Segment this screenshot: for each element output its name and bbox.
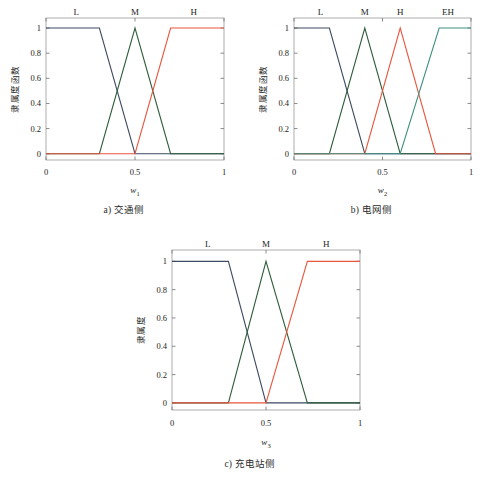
x-axis-title-subscript: 3 [267,442,270,449]
x-tick-label: 1 [222,167,226,177]
y-tick-label: 0 [163,398,167,408]
x-tick-label: 0 [170,418,174,428]
x-axis-title-subscript: 1 [136,190,139,197]
x-tick-label: 0 [292,167,296,177]
x-tick-label: 0.5 [377,167,388,177]
y-tick-label: 1 [37,23,41,33]
membership-chart-b: 00.5100.20.40.60.81LMHEHw2隶属度函数 [248,0,495,202]
y-tick-label: 0.8 [278,48,289,58]
panel-caption-a: a) 交通侧 [0,202,248,216]
y-tick-label: 1 [163,256,167,266]
series-label-eh: EH [442,7,454,17]
y-tick-label: 0.8 [156,285,167,295]
series-label-h: H [323,239,330,249]
panel-caption-b: b) 电网侧 [248,202,495,216]
x-tick-label: 0.5 [261,418,272,428]
plot-frame [172,250,360,410]
x-axis-title: w3 [261,437,270,449]
y-tick-label: 0.6 [30,73,41,83]
x-axis-title: w1 [130,185,139,197]
membership-chart-c: 00.5100.20.40.60.81LMHw3隶属度 [110,228,390,456]
x-tick-label: 0 [44,167,48,177]
x-tick-label: 0.5 [130,167,141,177]
y-tick-label: 0.4 [278,98,289,108]
chart-panel-b: 00.5100.20.40.60.81LMHEHw2隶属度函数 b) 电网侧 [248,0,495,222]
y-tick-label: 1 [285,23,289,33]
y-tick-label: 0 [285,149,289,159]
x-axis-title-subscript: 2 [384,190,387,197]
y-axis-title: 隶属度 [136,316,146,345]
chart-panel-c: 00.5100.20.40.60.81LMHw3隶属度 c) 充电站侧 [110,228,390,476]
series-label-l: L [74,7,80,17]
series-label-h: H [190,7,197,17]
x-axis-title: w2 [378,185,387,197]
series-label-m: M [131,7,139,17]
y-tick-label: 0.4 [156,341,167,351]
y-axis-title: 隶属度函数 [258,65,268,113]
y-tick-label: 0.2 [278,124,289,134]
y-tick-label: 0.2 [156,370,167,380]
figure-container: 00.5100.20.40.60.81LMHw1隶属度函数 a) 交通侧 00.… [0,0,495,486]
series-label-h: H [397,7,404,17]
y-tick-label: 0.8 [30,48,41,58]
y-tick-label: 0.6 [278,73,289,83]
panel-caption-c: c) 充电站侧 [110,456,390,470]
series-label-l: L [318,7,324,17]
x-tick-label: 1 [358,418,362,428]
series-label-l: L [205,239,211,249]
chart-panel-a: 00.5100.20.40.60.81LMHw1隶属度函数 a) 交通侧 [0,0,248,222]
y-axis-title: 隶属度函数 [10,65,20,113]
y-tick-label: 0.4 [30,98,41,108]
series-label-m: M [361,7,369,17]
x-tick-label: 1 [469,167,473,177]
membership-chart-a: 00.5100.20.40.60.81LMHw1隶属度函数 [0,0,248,202]
y-tick-label: 0.6 [156,313,167,323]
y-tick-label: 0.2 [30,124,41,134]
plot-frame [46,18,224,160]
y-tick-label: 0 [37,149,41,159]
series-label-m: M [262,239,270,249]
